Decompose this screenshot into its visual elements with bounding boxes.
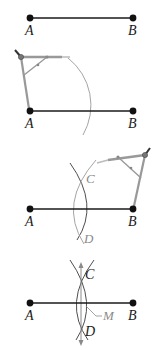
label-b: B: [128, 308, 137, 323]
label-d: D: [84, 324, 95, 339]
label-b: B: [128, 214, 137, 229]
label-c: C: [85, 267, 95, 282]
label-d: D: [83, 231, 94, 246]
point-a: [27, 300, 34, 307]
arrow-down-icon: [79, 340, 84, 346]
point-a: [27, 15, 34, 22]
step-3: A B C D: [24, 148, 150, 246]
step-4: A B C D M: [24, 260, 137, 346]
label-c: C: [86, 171, 95, 186]
label-a: A: [24, 23, 34, 38]
point-b: [130, 108, 137, 115]
point-b: [130, 206, 137, 213]
midpoint-leader: [86, 306, 102, 316]
step-2: A B: [15, 50, 137, 135]
label-b: B: [128, 116, 137, 131]
arc-from-a: [68, 58, 91, 135]
step-1: A B: [24, 15, 137, 38]
label-m: M: [102, 308, 115, 323]
compass-icon: [97, 148, 150, 206]
point-a: [27, 206, 34, 213]
compass-icon: [15, 50, 70, 109]
label-b: B: [128, 23, 137, 38]
label-a: A: [24, 308, 34, 323]
midpoint-construction-diagram: A B A B: [0, 0, 158, 350]
arrow-up-icon: [79, 262, 84, 268]
label-a: A: [24, 116, 34, 131]
label-a: A: [24, 214, 34, 229]
point-b: [130, 15, 137, 22]
point-a: [27, 108, 34, 115]
point-b: [130, 300, 137, 307]
